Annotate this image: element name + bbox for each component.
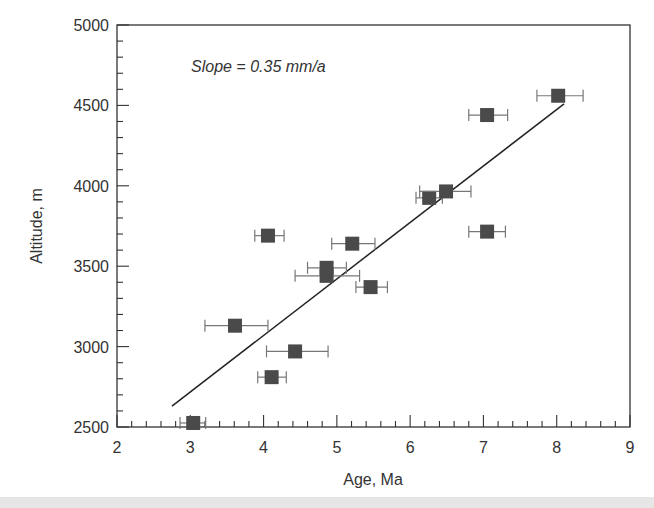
x-tick-label: 6 (406, 439, 415, 456)
bottom-band (0, 497, 654, 508)
data-point (267, 344, 329, 358)
x-tick-label: 3 (186, 439, 195, 456)
data-point (469, 108, 508, 122)
data-point (332, 237, 375, 251)
scatter-chart: 23456789250030003500400045005000 Slope =… (0, 0, 654, 508)
x-axis-label: Age, Ma (343, 471, 403, 488)
y-tick-label: 4000 (73, 178, 109, 195)
x-tick-label: 4 (259, 439, 268, 456)
data-point (255, 229, 284, 243)
axis-ticks: 23456789250030003500400045005000 (73, 17, 634, 456)
data-point (205, 319, 268, 333)
x-tick-label: 9 (626, 439, 635, 456)
data-point (258, 370, 287, 384)
fit-line (172, 104, 564, 406)
x-tick-label: 7 (479, 439, 488, 456)
y-tick-label: 3500 (73, 258, 109, 275)
slope-annotation: Slope = 0.35 mm/a (191, 58, 326, 75)
x-tick-label: 5 (332, 439, 341, 456)
x-tick-label: 2 (113, 439, 122, 456)
y-tick-label: 4500 (73, 97, 109, 114)
data-points (180, 89, 583, 430)
y-axis-label: Altitude, m (28, 188, 45, 264)
data-point (295, 269, 359, 283)
x-tick-label: 8 (552, 439, 561, 456)
y-tick-label: 2500 (73, 419, 109, 436)
y-tick-label: 5000 (73, 17, 109, 34)
data-point (469, 225, 506, 239)
data-point (356, 280, 388, 294)
plot-frame (117, 25, 630, 427)
data-point (180, 416, 206, 430)
data-point (537, 89, 583, 103)
y-tick-label: 3000 (73, 339, 109, 356)
